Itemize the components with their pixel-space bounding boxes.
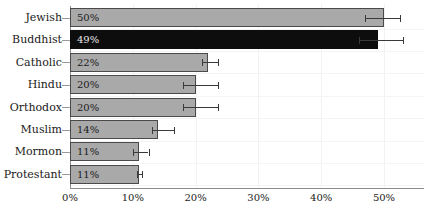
error-bar-cap-low [365, 15, 366, 22]
category-tick [62, 40, 70, 41]
error-bar-line [152, 130, 174, 131]
error-bar-cap-low [183, 104, 184, 111]
category-label-catholic: Catholic [0, 53, 62, 72]
bar-catholic[interactable]: 22% [70, 53, 208, 72]
error-bar-line [183, 107, 218, 108]
error-bar-cap-high [218, 104, 219, 111]
error-bar-cap-high [142, 171, 143, 178]
x-tick-label-10pct: 10% [113, 192, 153, 203]
bar-value-label: 20% [77, 76, 99, 93]
category-tick [62, 18, 70, 19]
error-bar-cap-high [400, 15, 401, 22]
bar-value-label: 22% [77, 54, 99, 71]
x-tick-label-30pct: 30% [238, 192, 278, 203]
category-tick [62, 130, 70, 131]
bar-mormon[interactable]: 11% [70, 142, 139, 161]
horizontal-bar-chart: Jewish50%Buddhist49%Catholic22%Hindu20%O… [0, 0, 424, 214]
error-bar-cap-high [403, 37, 404, 44]
category-tick [62, 152, 70, 153]
error-bar-line [365, 18, 400, 19]
bar-value-label: 14% [77, 121, 99, 138]
category-label-muslim: Muslim [0, 120, 62, 139]
error-bar-cap-low [133, 149, 134, 156]
category-label-buddhist: Buddhist [0, 30, 62, 49]
bar-jewish[interactable]: 50% [70, 8, 384, 27]
error-bar-cap-low [202, 59, 203, 66]
error-bar-cap-low [152, 127, 153, 134]
bar-value-label: 50% [77, 9, 99, 26]
bar-muslim[interactable]: 14% [70, 120, 158, 139]
bar-value-label: 11% [77, 166, 99, 183]
bar-value-label: 20% [77, 99, 99, 116]
bar-orthodox[interactable]: 20% [70, 98, 196, 117]
category-label-jewish: Jewish [0, 8, 62, 27]
error-bar-cap-high [218, 59, 219, 66]
gridline-horizontal [70, 118, 424, 119]
bar-value-label: 49% [77, 31, 99, 48]
error-bar-line [183, 85, 218, 86]
error-bar-cap-high [149, 149, 150, 156]
gridline-horizontal [70, 185, 424, 186]
x-tick-label-50pct: 50% [364, 192, 404, 203]
bar-protestant[interactable]: 11% [70, 165, 139, 184]
bar-value-label: 11% [77, 143, 99, 160]
x-tick-label-20pct: 20% [176, 192, 216, 203]
x-tick-label-40pct: 40% [301, 192, 341, 203]
category-label-hindu: Hindu [0, 75, 62, 94]
error-bar-line [359, 40, 403, 41]
error-bar-cap-low [359, 37, 360, 44]
category-label-orthodox: Orthodox [0, 98, 62, 117]
category-label-protestant: Protestant [0, 165, 62, 184]
category-tick [62, 62, 70, 63]
error-bar-line [133, 152, 149, 153]
error-bar-line [202, 62, 218, 63]
category-tick [62, 85, 70, 86]
bar-buddhist[interactable]: 49% [70, 30, 378, 49]
gridline-horizontal [70, 73, 424, 74]
error-bar-cap-high [218, 82, 219, 89]
error-bar-cap-high [174, 127, 175, 134]
error-bar-cap-low [183, 82, 184, 89]
category-label-mormon: Mormon [0, 142, 62, 161]
error-bar-cap-low [137, 171, 138, 178]
bar-hindu[interactable]: 20% [70, 75, 196, 94]
category-tick [62, 174, 70, 175]
category-tick [62, 107, 70, 108]
x-axis-line [70, 188, 424, 189]
x-tick-label-0pct: 0% [50, 192, 90, 203]
